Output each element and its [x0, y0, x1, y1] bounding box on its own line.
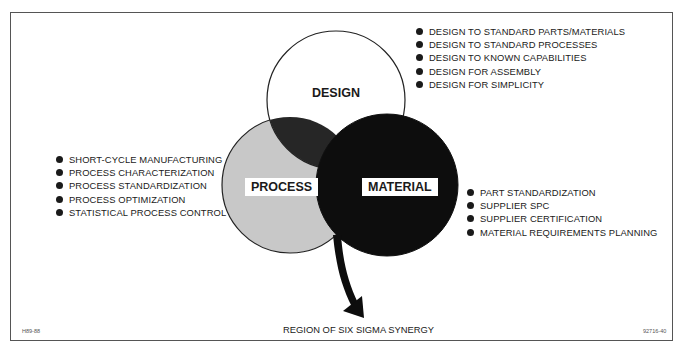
bullet-icon [416, 54, 423, 61]
process-label: PROCESS [245, 178, 318, 196]
arrow-label: REGION OF SIX SIGMA SYNERGY [283, 324, 434, 335]
design-list: DESIGN TO STANDARD PARTS/MATERIALS DESIG… [415, 25, 625, 91]
list-item: PROCESS OPTIMIZATION [55, 193, 226, 206]
list-item: SUPPLIER SPC [466, 199, 658, 212]
material-list: PART STANDARDIZATION SUPPLIER SPC SUPPLI… [466, 186, 658, 239]
bullet-icon [467, 215, 474, 222]
list-item: PROCESS CHARACTERIZATION [55, 166, 226, 179]
bullet-icon [416, 41, 423, 48]
bullet-icon [56, 182, 63, 189]
bullet-icon [416, 68, 423, 75]
list-item: DESIGN TO STANDARD PROCESSES [415, 38, 625, 51]
bullet-icon [416, 28, 423, 35]
bullet-icon [56, 196, 63, 203]
bullet-icon [467, 189, 474, 196]
bullet-icon [56, 156, 63, 163]
process-list: SHORT-CYCLE MANUFACTURING PROCESS CHARAC… [55, 153, 226, 219]
list-item: PROCESS STANDARDIZATION [55, 179, 226, 192]
list-item: SUPPLIER CERTIFICATION [466, 212, 658, 225]
bullet-icon [416, 81, 423, 88]
list-item: DESIGN FOR SIMPLICITY [415, 78, 625, 91]
list-item: DESIGN TO KNOWN CAPABILITIES [415, 51, 625, 64]
design-label: DESIGN [312, 86, 360, 100]
list-item: SHORT-CYCLE MANUFACTURING [55, 153, 226, 166]
list-item: DESIGN FOR ASSEMBLY [415, 65, 625, 78]
bullet-icon [56, 169, 63, 176]
list-item: MATERIAL REQUIREMENTS PLANNING [466, 226, 658, 239]
footer-right-code: 92716-40 [643, 328, 666, 334]
list-item: STATISTICAL PROCESS CONTROL [55, 206, 226, 219]
footer-left-code: H89-88 [22, 328, 40, 334]
bullet-icon [467, 229, 474, 236]
list-item: PART STANDARDIZATION [466, 186, 658, 199]
material-label: MATERIAL [362, 178, 438, 196]
list-item: DESIGN TO STANDARD PARTS/MATERIALS [415, 25, 625, 38]
bullet-icon [56, 209, 63, 216]
bullet-icon [467, 202, 474, 209]
